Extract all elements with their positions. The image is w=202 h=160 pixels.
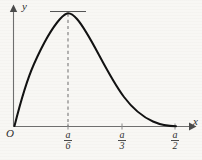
function-curve	[15, 13, 177, 126]
fraction-denominator: 3	[109, 141, 135, 151]
fraction-numerator: a	[55, 130, 81, 140]
x-tick-label-a-over-2: a 2	[162, 130, 188, 151]
y-axis-arrowhead	[10, 5, 17, 13]
y-axis-label: y	[22, 1, 27, 12]
x-tick-label-a-over-3: a 3	[109, 130, 135, 151]
figure-root: y x O a 6 a 3 a 2	[0, 0, 202, 160]
fraction-numerator: a	[109, 130, 135, 140]
fraction-denominator: 6	[55, 141, 81, 151]
x-tick-label-a-over-6: a 6	[55, 130, 81, 151]
origin-label: O	[6, 128, 14, 139]
fraction-numerator: a	[162, 130, 188, 140]
x-axis-label: x	[193, 116, 198, 127]
fraction-denominator: 2	[162, 141, 188, 151]
